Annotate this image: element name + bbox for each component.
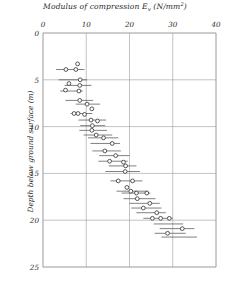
compression-modulus-depth-chart: Modulus of compression Ev (N/mm2) Depth … — [0, 0, 230, 285]
x-tick-label: 40 — [211, 20, 220, 29]
data-point — [76, 112, 80, 116]
data-point — [129, 189, 133, 193]
x-tick-label: 0 — [41, 20, 46, 29]
x-tick-label: 30 — [168, 20, 177, 29]
data-point — [166, 231, 170, 235]
plot-area — [0, 0, 230, 285]
data-point — [90, 107, 94, 111]
data-point — [64, 68, 68, 72]
data-point — [94, 133, 98, 137]
data-point — [103, 149, 107, 153]
data-point — [77, 89, 81, 93]
data-point — [89, 118, 93, 122]
data-point — [155, 211, 159, 215]
data-point — [148, 201, 152, 205]
data-point — [78, 98, 82, 102]
data-point — [124, 164, 128, 168]
data-point — [96, 119, 100, 123]
data-point — [83, 113, 87, 117]
data-point — [141, 206, 145, 210]
data-point — [102, 136, 106, 140]
data-point — [72, 112, 76, 116]
data-point — [125, 186, 129, 190]
y-tick-label: 5 — [22, 75, 39, 84]
data-point — [108, 159, 112, 163]
data-point — [151, 216, 155, 220]
y-tick-label: 25 — [22, 263, 39, 272]
data-point — [122, 160, 126, 164]
data-point — [145, 191, 149, 195]
x-tick-label: 10 — [82, 20, 91, 29]
data-point — [110, 142, 114, 146]
data-point — [76, 62, 80, 66]
data-point — [180, 227, 184, 231]
data-point — [135, 191, 139, 195]
data-point — [85, 102, 89, 106]
data-point — [74, 68, 78, 72]
data-point — [116, 179, 120, 183]
data-point — [67, 82, 71, 86]
y-tick-label: 10 — [22, 122, 39, 131]
data-point — [90, 128, 94, 132]
data-point — [114, 154, 118, 158]
data-point — [64, 88, 68, 92]
x-tick-label: 20 — [125, 20, 134, 29]
y-tick-label: 15 — [22, 169, 39, 178]
y-tick-label: 20 — [22, 216, 39, 225]
data-point — [167, 216, 171, 220]
data-point — [90, 124, 94, 128]
data-point — [78, 78, 82, 82]
y-tick-label: 0 — [22, 29, 39, 38]
data-point — [78, 84, 82, 88]
data-point — [135, 197, 139, 201]
data-point — [123, 170, 127, 174]
data-point — [131, 179, 135, 183]
data-point — [159, 216, 163, 220]
